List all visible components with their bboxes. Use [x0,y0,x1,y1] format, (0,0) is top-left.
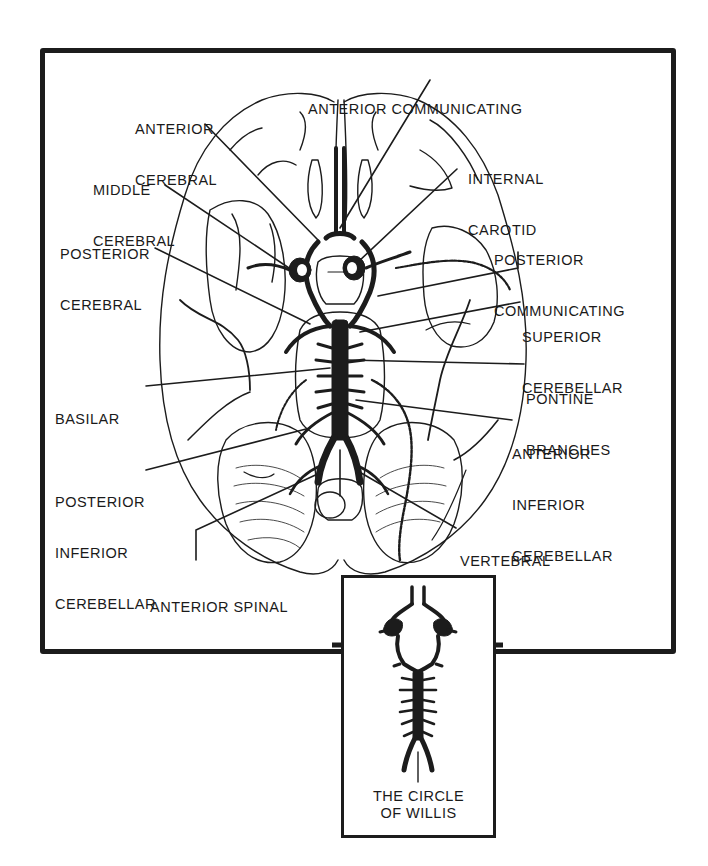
inset-caption: THE CIRCLE OF WILLIS [341,788,496,822]
label-posterior-inferior-cerebellar: POSTERIOR INFERIOR CEREBELLAR [55,460,156,647]
label-vertebral: VERTEBRAL [460,519,550,604]
label-basilar: BASILAR [55,377,120,462]
label-posterior-cerebral: POSTERIOR CEREBRAL [60,212,150,348]
anatomy-figure: ANTERIOR COMMUNICATING ANTERIOR CEREBRAL… [0,0,708,866]
label-anterior-spinal: ANTERIOR SPINAL [150,565,288,650]
